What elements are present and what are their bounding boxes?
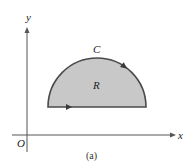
curve-label: C	[93, 43, 101, 55]
figure-caption: (a)	[86, 150, 97, 162]
origin-label: O	[17, 137, 25, 149]
diagram-figure: y x O C R (a)	[0, 0, 194, 168]
x-axis-arrow-icon	[170, 133, 176, 138]
y-axis-arrow-icon	[25, 27, 30, 33]
y-axis-label: y	[25, 11, 31, 23]
x-axis-label: x	[177, 129, 183, 141]
region-label: R	[92, 79, 100, 91]
